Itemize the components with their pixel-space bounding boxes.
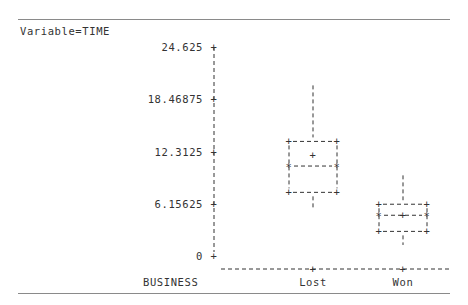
y-tick-mark: + — [211, 146, 218, 158]
boxplot-chart: +24.625+18.46875+12.3125+6.15625+0 +Lost… — [0, 0, 468, 305]
y-tick-mark: + — [211, 41, 218, 53]
box-corner: + — [424, 198, 431, 210]
y-tick-mark: + — [211, 250, 218, 262]
y-tick-label: 18.46875 — [148, 93, 203, 105]
median-marker: * — [424, 210, 431, 222]
box-corner: + — [376, 225, 383, 237]
x-tick-label: Won — [393, 276, 414, 288]
box-corner: + — [376, 198, 383, 210]
y-tick-label: 24.625 — [161, 41, 203, 53]
box-corner: + — [334, 135, 341, 147]
box-corner: + — [424, 225, 431, 237]
mean-marker: + — [400, 209, 407, 221]
mean-marker: + — [310, 149, 317, 161]
box-corner: + — [286, 186, 293, 198]
boxes: ++++**+++++**+ — [286, 85, 431, 245]
y-tick-label: 12.3125 — [155, 146, 203, 158]
box-won: ++++**+ — [376, 175, 431, 245]
box-corner: + — [286, 135, 293, 147]
median-marker: * — [286, 161, 293, 173]
median-marker: * — [334, 161, 341, 173]
y-axis: +24.625+18.46875+12.3125+6.15625+0 — [148, 41, 218, 262]
box-corner: + — [334, 186, 341, 198]
y-tick-label: 0 — [196, 250, 203, 262]
y-tick-mark: + — [211, 198, 218, 210]
box-lost: ++++**+ — [286, 85, 341, 207]
x-tick-mark: + — [310, 263, 317, 275]
y-tick-mark: + — [211, 93, 218, 105]
x-tick-mark: + — [400, 263, 407, 275]
x-tick-label: Lost — [299, 276, 327, 288]
y-tick-label: 6.15625 — [155, 198, 203, 210]
x-axis: +Lost+WonBUSINESS — [143, 263, 452, 288]
x-axis-title: BUSINESS — [143, 276, 198, 288]
median-marker: * — [376, 210, 383, 222]
